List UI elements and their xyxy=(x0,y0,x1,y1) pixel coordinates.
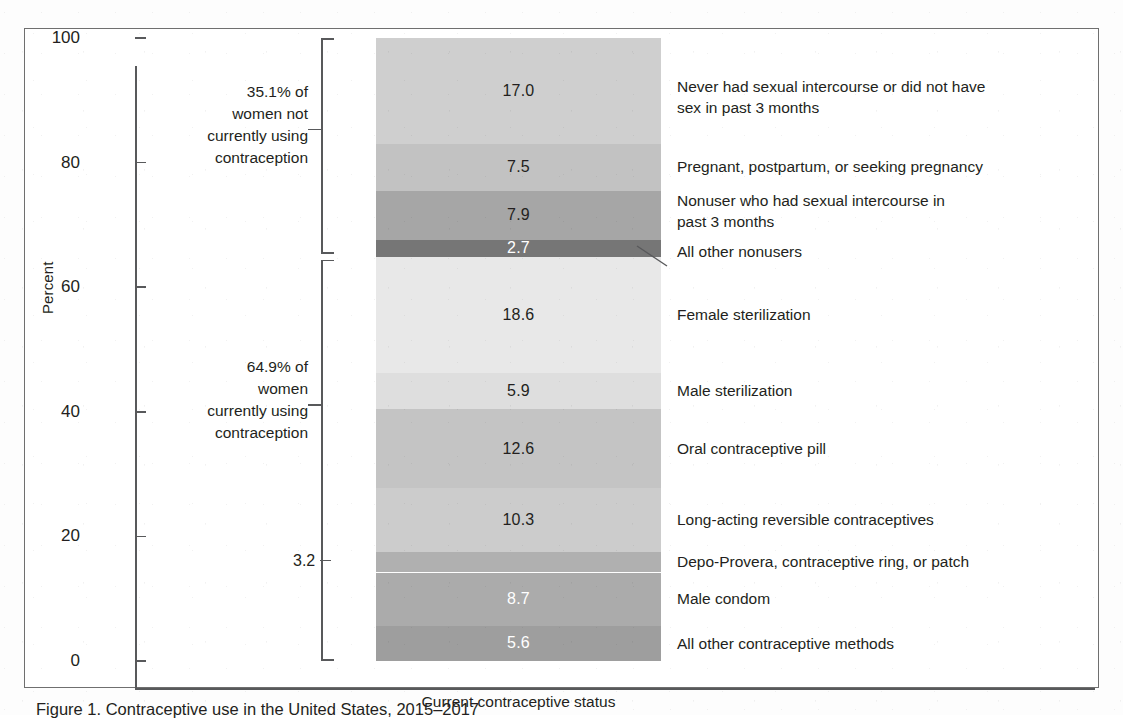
stacked-bar: 17.07.57.92.718.65.912.610.38.75.6 xyxy=(376,38,661,661)
bracket-note-users: 64.9% of women currently using contracep… xyxy=(145,356,308,444)
figure-frame: Percent 100806040200 35.1% of women not … xyxy=(24,28,1099,688)
y-tick-label: 100 xyxy=(20,29,80,46)
category-label-line: Never had sexual intercourse or did not … xyxy=(677,77,1117,98)
bar-segment: 5.9 xyxy=(376,373,661,410)
x-axis-line xyxy=(135,688,1095,690)
callout-depo-number: 3.2 xyxy=(293,552,315,569)
category-label-line: Female sterilization xyxy=(677,305,1117,326)
note-line: contraception xyxy=(145,422,308,444)
y-axis-line xyxy=(135,66,137,690)
category-label: Never had sexual intercourse or did not … xyxy=(677,77,1117,118)
leader-line-all-other-nonusers xyxy=(637,246,671,268)
note-line: 64.9% of xyxy=(145,356,308,378)
segment-value-label: 5.6 xyxy=(507,635,530,651)
bar-segment: 8.7 xyxy=(376,572,661,626)
category-label-line: Male sterilization xyxy=(677,381,1117,402)
figure-caption: Figure 1. Contraceptive use in the Unite… xyxy=(36,700,479,719)
y-tick xyxy=(135,660,146,662)
note-line: currently using xyxy=(145,400,308,422)
bracket-arm-top xyxy=(321,38,334,40)
category-label: Nonuser who had sexual intercourse inpas… xyxy=(677,191,1117,232)
segment-value-label: 7.5 xyxy=(507,159,530,175)
bar-segment: 10.3 xyxy=(376,488,661,552)
segment-value-label: 5.9 xyxy=(507,383,530,399)
category-label-line: sex in past 3 months xyxy=(677,98,1117,119)
bar-segment: 17.0 xyxy=(376,38,661,144)
bar-segment: 7.5 xyxy=(376,144,661,191)
segment-value-label: 17.0 xyxy=(503,83,535,99)
bar-segment: 2.7 xyxy=(376,240,661,257)
segment-value-label: 7.9 xyxy=(507,207,530,223)
segment-value-label: 12.6 xyxy=(503,441,535,457)
category-label-line: Male condom xyxy=(677,589,1117,610)
y-tick xyxy=(135,536,146,538)
category-label-line: Oral contraceptive pill xyxy=(677,439,1117,460)
note-line: currently using xyxy=(145,125,308,147)
note-line: contraception xyxy=(145,147,308,169)
category-label: Pregnant, postpartum, or seeking pregnan… xyxy=(677,157,1117,178)
category-label: All other nonusers xyxy=(677,242,1117,263)
category-label: Oral contraceptive pill xyxy=(677,439,1117,460)
y-tick xyxy=(135,286,146,288)
bar-segment: 7.9 xyxy=(376,191,661,240)
category-label-line: Nonuser who had sexual intercourse in xyxy=(677,191,1117,212)
bracket-spine xyxy=(321,260,323,661)
y-tick-label: 40 xyxy=(20,403,80,420)
category-label-line: Depo-Provera, contraceptive ring, or pat… xyxy=(677,552,1117,573)
bracket-spine xyxy=(321,38,323,254)
category-label: Male sterilization xyxy=(677,381,1117,402)
category-label-line: past 3 months xyxy=(677,212,1117,233)
note-line: women not xyxy=(145,103,308,125)
bracket-arm-bottom xyxy=(321,659,334,661)
category-label: Female sterilization xyxy=(677,305,1117,326)
y-tick xyxy=(135,37,146,39)
category-label-line: All other nonusers xyxy=(677,242,1117,263)
bar-segment: 12.6 xyxy=(376,409,661,487)
bar-segment: 18.6 xyxy=(376,257,661,373)
bar-segment xyxy=(376,552,661,572)
callout-depo-value: 3.2 xyxy=(293,552,331,570)
category-label: Long-acting reversible contraceptives xyxy=(677,510,1117,531)
y-tick-label: 0 xyxy=(20,652,80,669)
y-axis-title: Percent xyxy=(39,194,56,314)
bracket-arm-bottom xyxy=(321,252,334,254)
category-label-line: Pregnant, postpartum, or seeking pregnan… xyxy=(677,157,1117,178)
note-line: 35.1% of xyxy=(145,81,308,103)
category-label: Depo-Provera, contraceptive ring, or pat… xyxy=(677,552,1117,573)
segment-value-label: 10.3 xyxy=(503,512,535,528)
segment-value-label: 18.6 xyxy=(503,307,535,323)
category-label-line: Long-acting reversible contraceptives xyxy=(677,510,1117,531)
bracket-pointer xyxy=(308,404,321,406)
category-label: All other contraceptive methods xyxy=(677,634,1117,655)
callout-dash xyxy=(320,560,331,562)
y-tick-label: 80 xyxy=(20,154,80,171)
y-tick-label: 20 xyxy=(20,527,80,544)
bar-segment: 5.6 xyxy=(376,626,661,661)
segment-value-label: 2.7 xyxy=(507,240,530,256)
category-label-line: All other contraceptive methods xyxy=(677,634,1117,655)
bracket-pointer xyxy=(308,129,321,131)
y-tick-label: 60 xyxy=(20,278,80,295)
bracket-note-nonusers: 35.1% of women not currently using contr… xyxy=(145,81,308,169)
bracket-arm-top xyxy=(321,260,334,262)
category-label: Male condom xyxy=(677,589,1117,610)
note-line: women xyxy=(145,378,308,400)
segment-value-label: 8.7 xyxy=(507,591,530,607)
